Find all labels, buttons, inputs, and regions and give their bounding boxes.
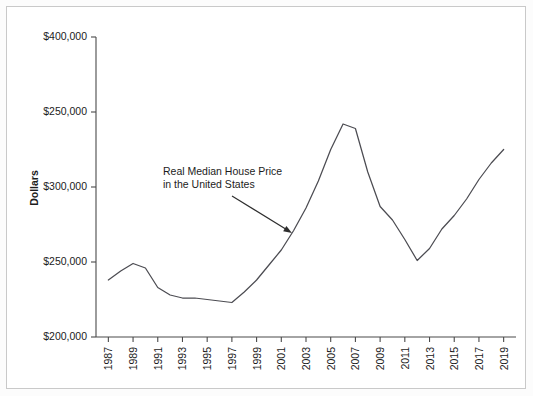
y-axis-title: Dollars	[28, 170, 40, 206]
x-tick-label: 1987	[102, 347, 114, 371]
annotation-arrow-line	[232, 196, 286, 230]
x-tick-label: 2015	[448, 347, 460, 371]
data-series-line	[108, 124, 503, 303]
annotation-text-line-1: Real Median House Price	[163, 165, 282, 177]
y-tick-label: $400,000	[43, 30, 87, 42]
x-tick-label: 1997	[226, 347, 238, 371]
x-axis-ticks	[108, 337, 503, 342]
annotation-arrow-head	[283, 226, 292, 233]
x-tick-label: 1989	[127, 347, 139, 371]
y-tick-label: $200,000	[43, 330, 87, 342]
line-chart: $400,000$250,000$300,000$250,000$200,000…	[0, 0, 533, 396]
x-tick-label: 2017	[473, 347, 485, 371]
x-tick-label: 2011	[399, 347, 411, 370]
x-tick-label: 1993	[176, 347, 188, 371]
x-tick-label: 2019	[498, 347, 510, 371]
y-axis-ticks	[91, 37, 96, 337]
x-tick-label: 1999	[251, 347, 263, 371]
x-tick-label: 1991	[152, 347, 164, 371]
annotation-text-line-2: in the United States	[163, 178, 255, 190]
y-tick-label: $250,000	[43, 105, 87, 117]
x-tick-label: 2009	[374, 347, 386, 371]
x-tick-label: 2001	[275, 347, 287, 371]
x-tick-label: 2013	[424, 347, 436, 371]
x-axis-tick-labels: 1987198919911993199519971999200120032005…	[102, 347, 509, 371]
x-tick-label: 1995	[201, 347, 213, 371]
y-axis-tick-labels: $400,000$250,000$300,000$250,000$200,000	[43, 30, 87, 342]
chart-figure: $400,000$250,000$300,000$250,000$200,000…	[0, 0, 533, 396]
y-tick-label: $300,000	[43, 180, 87, 192]
x-tick-label: 2003	[300, 347, 312, 371]
y-tick-label: $250,000	[43, 255, 87, 267]
x-tick-label: 2007	[349, 347, 361, 371]
chart-annotation: Real Median House Price in the United St…	[163, 165, 292, 233]
x-tick-label: 2005	[325, 347, 337, 371]
